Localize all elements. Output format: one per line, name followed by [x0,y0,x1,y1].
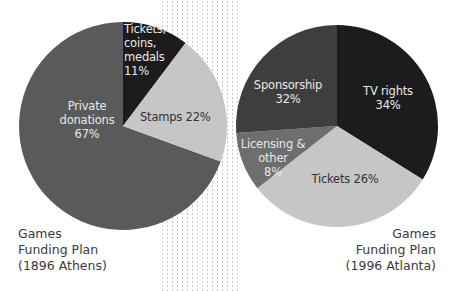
caption-line: Funding Plan [18,242,107,258]
label-line: 8% [238,165,308,179]
label-line: Tickets, [124,22,166,36]
label-stamps: Stamps 22% [140,110,211,124]
label-tv-rights: TV rights 34% [353,84,423,112]
label-sponsorship: Sponsorship 32% [248,78,328,106]
label-line: 32% [248,92,328,106]
label-line: 67% [52,127,122,141]
label-private-donations: Private donations 67% [52,99,122,141]
caption-1896-athens: Games Funding Plan (1896 Athens) [18,226,107,274]
caption-1996-atlanta: Games Funding Plan (1996 Atlanta) [346,226,436,274]
label-tickets-coins-medals: Tickets, coins, medals 11% [124,22,166,78]
label-line: donations [52,113,122,127]
pie-1996-atlanta [236,25,438,227]
caption-line: Games [346,226,436,242]
label-line: other [238,151,308,165]
label-line: Sponsorship [248,78,328,92]
label-line: Licensing & [238,137,308,151]
label-line: Private [52,99,122,113]
caption-line: (1996 Atlanta) [346,258,436,274]
caption-line: (1896 Athens) [18,258,107,274]
label-line: coins, [124,36,166,50]
pie-1896-athens [19,22,227,230]
label-licensing-other: Licensing & other 8% [238,137,308,179]
label-tickets-26: Tickets 26% [300,172,390,186]
label-line: TV rights [353,84,423,98]
label-line: medals [124,50,166,64]
label-line: 11% [124,64,166,78]
label-line: 34% [353,98,423,112]
caption-line: Funding Plan [346,242,436,258]
caption-line: Games [18,226,107,242]
